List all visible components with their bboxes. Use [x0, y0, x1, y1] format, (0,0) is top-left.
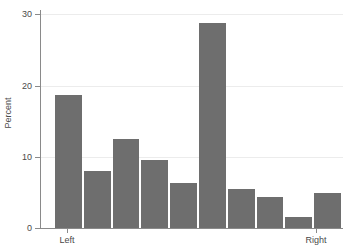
- x-tick-label-right: Right: [305, 235, 326, 245]
- x-tick-mark-right: [316, 229, 317, 233]
- bar: [141, 160, 168, 228]
- bars-container: [40, 8, 343, 228]
- bar-chart: Percent 30 20 10 0 Left Right: [0, 0, 343, 251]
- bar: [285, 217, 312, 228]
- bar: [228, 189, 255, 228]
- bar: [84, 171, 111, 228]
- y-tick-label-30: 30: [4, 10, 32, 19]
- bar: [55, 95, 82, 228]
- bar: [113, 139, 140, 228]
- y-tick-label-20: 20: [4, 82, 32, 91]
- y-tick-label-0: 0: [4, 224, 32, 233]
- bar: [170, 183, 197, 228]
- bar: [199, 23, 226, 228]
- x-tick-label-left: Left: [59, 235, 74, 245]
- y-tick-label-10: 10: [4, 153, 32, 162]
- x-tick-mark-left: [67, 229, 68, 233]
- y-axis-title: Percent: [3, 83, 13, 143]
- bar: [314, 193, 341, 228]
- bar: [257, 197, 284, 228]
- x-axis-line: [40, 228, 343, 229]
